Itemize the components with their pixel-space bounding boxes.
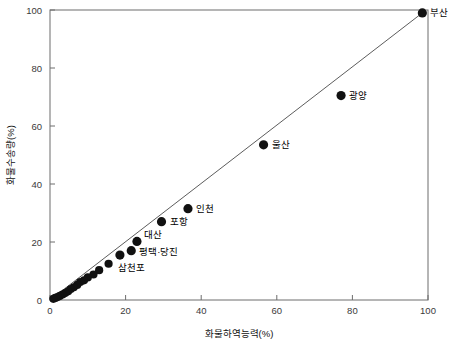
data-point-marker bbox=[49, 295, 57, 303]
data-point-marker bbox=[183, 204, 192, 213]
data-point-label: 울산 bbox=[272, 139, 290, 150]
data-point-label: 삼천포 bbox=[118, 262, 145, 273]
x-tick-label: 20 bbox=[120, 305, 131, 316]
scatter-chart: 020406080100 020406080100 부산광양울산인천포항대산평택… bbox=[0, 0, 450, 347]
data-point-marker bbox=[418, 8, 427, 17]
x-tick-label: 0 bbox=[47, 305, 52, 316]
y-tick-label: 0 bbox=[37, 295, 42, 306]
chart-canvas: 020406080100 020406080100 부산광양울산인천포항대산평택… bbox=[0, 0, 450, 347]
data-point-marker bbox=[259, 140, 268, 149]
data-point-label: 인천 bbox=[196, 203, 214, 214]
x-tick-label: 100 bbox=[420, 305, 436, 316]
data-point-marker bbox=[157, 217, 166, 226]
y-axis-title: 화물수송량(%) bbox=[5, 125, 16, 185]
data-point-marker bbox=[132, 237, 141, 246]
y-tick-label: 20 bbox=[31, 237, 42, 248]
data-point-label: 포항 bbox=[170, 216, 188, 227]
x-tick-label: 60 bbox=[272, 305, 283, 316]
x-axis-title: 화물하역능력(%) bbox=[205, 328, 274, 339]
x-tick-label: 40 bbox=[196, 305, 207, 316]
data-point-label: 대산 bbox=[144, 229, 162, 240]
y-tick-label: 80 bbox=[31, 63, 42, 74]
data-point-label: 광양 bbox=[349, 90, 367, 101]
data-point-marker bbox=[104, 260, 112, 268]
data-point-label: 부산 bbox=[430, 7, 448, 18]
x-tick-label: 80 bbox=[347, 305, 358, 316]
y-tick-label: 40 bbox=[31, 179, 42, 190]
y-tick-label: 60 bbox=[31, 121, 42, 132]
data-point-marker bbox=[336, 91, 345, 100]
data-point-marker bbox=[115, 250, 124, 259]
data-point-marker bbox=[127, 246, 136, 255]
data-point-label: 평택·당진 bbox=[139, 246, 178, 257]
y-tick-label: 100 bbox=[26, 5, 42, 16]
